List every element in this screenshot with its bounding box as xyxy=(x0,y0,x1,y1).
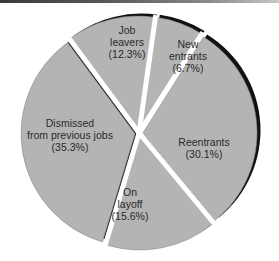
slice-label: Reentrants(30.1%) xyxy=(178,136,229,160)
pie-chart: Newentrants(6.7%)Reentrants(30.1%)Onlayo… xyxy=(0,0,279,261)
